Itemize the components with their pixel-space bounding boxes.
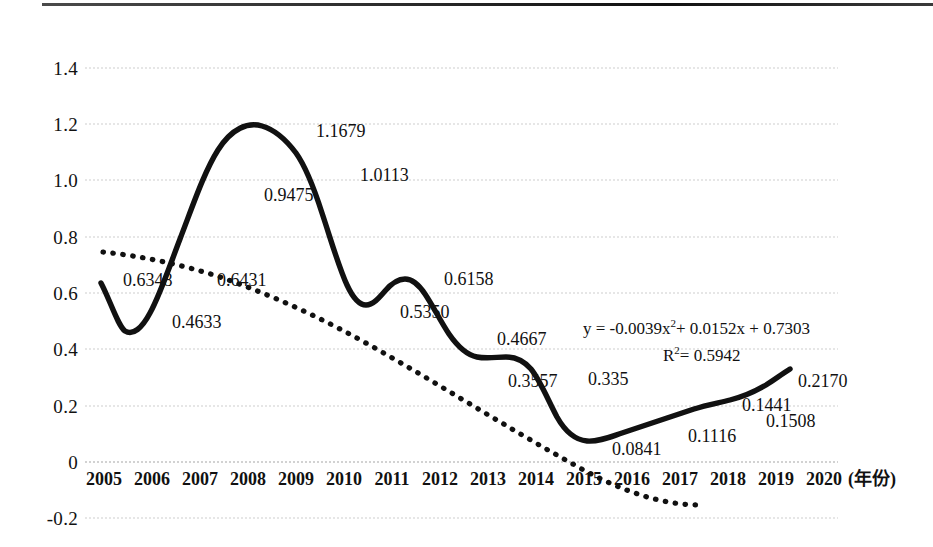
x-tick-2008: 2008 xyxy=(222,470,274,488)
data-label-2009: 1.1679 xyxy=(316,122,366,140)
x-tick-2020: 2020 xyxy=(798,470,850,488)
data-label-2016: 0.0841 xyxy=(612,440,662,458)
data-label-2013: 0.4667 xyxy=(497,330,547,348)
x-tick-2016: 2016 xyxy=(606,470,658,488)
trendline-r-squared: R2= 0.5942 xyxy=(663,340,740,366)
x-tick-2013: 2013 xyxy=(462,470,514,488)
gridlines-group xyxy=(85,68,838,518)
x-tick-2015: 2015 xyxy=(558,470,610,488)
data-label-2005: 0.6348 xyxy=(123,271,173,289)
y-tick-0: 0 xyxy=(22,453,78,472)
data-label-2007: 0.6431 xyxy=(217,271,267,289)
r-squared-pre: R xyxy=(663,346,674,365)
y-tick--0.2: -0.2 xyxy=(22,509,78,528)
data-label-2008: 0.9475 xyxy=(264,186,314,204)
trendline-equation-pre: y = -0.0039x xyxy=(583,319,671,338)
data-label-2020: 0.2170 xyxy=(798,372,848,390)
data-label-2011: 0.5350 xyxy=(400,303,450,321)
x-tick-2006: 2006 xyxy=(126,470,178,488)
x-tick-2014: 2014 xyxy=(510,470,562,488)
y-tick-1.0: 1.0 xyxy=(22,171,78,190)
x-tick-2012: 2012 xyxy=(414,470,466,488)
data-label-2006: 0.4633 xyxy=(172,313,222,331)
x-tick-2019: 2019 xyxy=(750,470,802,488)
x-axis-unit-label: (年份) xyxy=(848,470,896,488)
y-tick-0.2: 0.2 xyxy=(22,397,78,416)
trendline-equation-post: + 0.0152x + 0.7303 xyxy=(676,319,810,338)
x-tick-2011: 2011 xyxy=(366,470,418,488)
data-label-2012: 0.6158 xyxy=(444,270,494,288)
x-tick-2007: 2007 xyxy=(174,470,226,488)
data-label-2017: 0.1116 xyxy=(688,427,736,445)
data-label-2019: 0.1508 xyxy=(766,412,816,430)
y-tick-0.8: 0.8 xyxy=(22,228,78,247)
y-tick-0.4: 0.4 xyxy=(22,340,78,359)
data-label-2014: 0.3557 xyxy=(508,372,558,390)
data-label-2015: 0.335 xyxy=(588,370,629,388)
r-squared-post: = 0.5942 xyxy=(680,346,741,365)
x-tick-2005: 2005 xyxy=(78,470,130,488)
y-tick-1.2: 1.2 xyxy=(22,115,78,134)
x-tick-2018: 2018 xyxy=(702,470,754,488)
chart-plot-area: 1.4 1.2 1.0 0.8 0.6 0.4 0.2 0 -0.2 2005 … xyxy=(0,0,933,547)
x-tick-2010: 2010 xyxy=(318,470,370,488)
x-tick-2017: 2017 xyxy=(654,470,706,488)
data-label-2010: 1.0113 xyxy=(360,166,409,184)
trendline-equation: y = -0.0039x2+ 0.0152x + 0.7303 xyxy=(583,313,810,339)
y-tick-1.4: 1.4 xyxy=(22,59,78,78)
x-tick-2009: 2009 xyxy=(270,470,322,488)
y-tick-0.6: 0.6 xyxy=(22,284,78,303)
